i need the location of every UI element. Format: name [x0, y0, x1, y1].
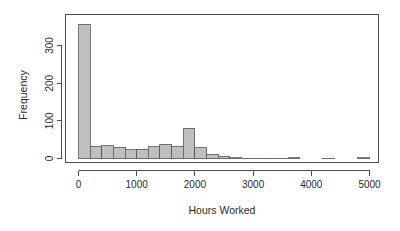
y-axis: 0100200300: [44, 37, 62, 162]
histogram-bars: [79, 24, 370, 159]
x-tick-label: 1000: [126, 179, 149, 190]
histogram-bar: [276, 158, 288, 159]
histogram-bar: [288, 158, 300, 159]
histogram-bar: [253, 158, 265, 159]
histogram-bar: [218, 156, 230, 158]
histogram-bar: [172, 146, 184, 158]
histogram-bar: [323, 158, 335, 159]
histogram-bar: [79, 24, 91, 158]
histogram-bar: [183, 128, 195, 158]
y-axis-title: Frequency: [17, 69, 29, 119]
histogram-bar: [265, 158, 277, 159]
x-tick-label: 4000: [300, 179, 323, 190]
x-axis: 010002000300040005000: [76, 171, 381, 191]
y-tick-label: 300: [44, 37, 55, 54]
histogram-figure: 0100200300 010002000300040005000 Frequen…: [0, 0, 400, 231]
histogram-bar: [195, 148, 207, 159]
histogram-bar: [148, 147, 160, 159]
x-tick-label: 3000: [242, 179, 265, 190]
histogram-bar: [160, 144, 172, 158]
y-tick-label: 100: [44, 112, 55, 129]
y-tick-label: 200: [44, 74, 55, 91]
histogram-bar: [102, 146, 114, 159]
y-tick-label: 0: [44, 155, 55, 161]
x-tick-label: 5000: [358, 179, 381, 190]
histogram-bar: [207, 154, 219, 158]
x-tick-label: 0: [76, 179, 82, 190]
histogram-bar: [125, 150, 137, 159]
histogram-bar: [90, 146, 102, 158]
x-axis-title: Hours Worked: [189, 204, 256, 216]
histogram-bar: [113, 147, 125, 158]
plot-frame: [66, 15, 379, 163]
x-tick-label: 2000: [184, 179, 207, 190]
histogram-bar: [230, 158, 242, 159]
histogram-plot: 0100200300 010002000300040005000 Frequen…: [0, 0, 400, 231]
histogram-bar: [241, 158, 253, 159]
histogram-bar: [358, 158, 370, 159]
histogram-bar: [137, 149, 149, 158]
